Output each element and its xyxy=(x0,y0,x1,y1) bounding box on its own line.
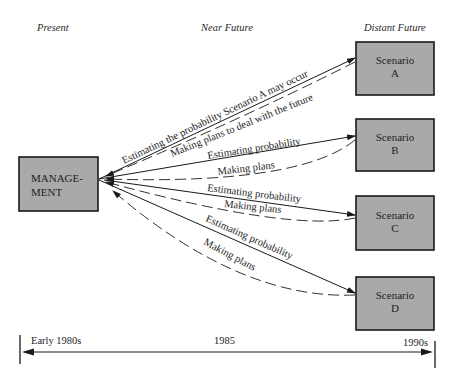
management-box: MANAGE- MENT xyxy=(19,157,98,211)
scenario-a-title: Scenario xyxy=(376,54,415,66)
scenario-a-letter: A xyxy=(391,67,399,79)
arrow-estimate-a xyxy=(99,58,355,179)
scenario-box-c: Scenario C xyxy=(356,196,434,250)
label-plans-b: Making plans xyxy=(217,159,275,177)
arrow-plans-a xyxy=(106,62,355,176)
scenario-box-a: Scenario A xyxy=(356,42,434,95)
scenario-d-letter: D xyxy=(391,302,399,314)
management-label-line1: MANAGE- xyxy=(31,172,83,184)
scenario-box-b: Scenario B xyxy=(356,119,434,171)
header-distant-future: Distant Future xyxy=(363,22,426,33)
timeline-middle-label: 1985 xyxy=(214,335,235,346)
header-present: Present xyxy=(36,22,70,33)
scenario-planning-diagram: Present Near Future Distant Future MANAG… xyxy=(0,0,453,376)
timeline-end-label: 1990s xyxy=(403,337,428,348)
scenario-b-title: Scenario xyxy=(376,131,415,143)
scenario-d-title: Scenario xyxy=(376,289,415,301)
scenario-b-letter: B xyxy=(391,144,398,156)
timeline: Early 1980s 1985 1990s xyxy=(20,335,435,368)
management-label-line2: MENT xyxy=(31,186,62,198)
scenario-box-d: Scenario D xyxy=(356,277,434,330)
timeline-right-arrowhead-icon xyxy=(421,349,433,356)
scenario-c-letter: C xyxy=(391,222,398,234)
header-near-future: Near Future xyxy=(200,22,253,33)
scenario-c-title: Scenario xyxy=(376,209,415,221)
timeline-start-label: Early 1980s xyxy=(31,335,81,346)
timeline-left-arrowhead-icon xyxy=(22,349,34,356)
